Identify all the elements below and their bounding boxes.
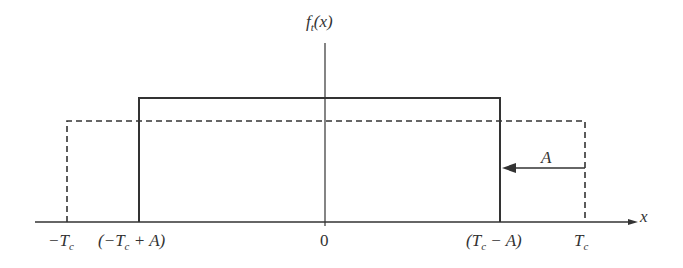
y-axis-label: ft(x) <box>306 12 333 33</box>
tick-label-tc-minus-a: (Tc − A) <box>466 231 522 252</box>
arrow-label-a: A <box>541 148 551 168</box>
tick-label-neg-tc: −Tc <box>48 231 74 252</box>
width-arrowhead <box>502 163 516 173</box>
x-axis-label: x <box>640 207 648 227</box>
diagram-canvas <box>0 0 683 268</box>
tick-label-zero: 0 <box>320 231 329 251</box>
tick-label-neg-tc-plus-a: (−Tc + A) <box>98 231 165 252</box>
x-axis-arrowhead <box>628 219 638 225</box>
tick-label-tc: Tc <box>574 231 588 252</box>
solid-rectangle <box>139 98 500 222</box>
dashed-rectangle <box>67 121 585 222</box>
